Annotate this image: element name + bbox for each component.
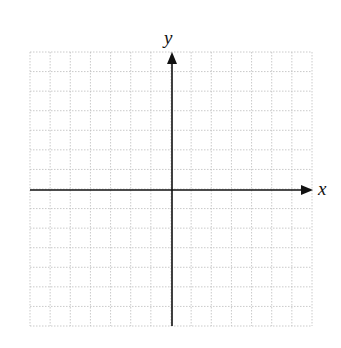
y-axis-label: y (164, 28, 172, 47)
coordinate-plane (0, 0, 341, 348)
y-axis-arrow-icon (167, 52, 177, 64)
x-axis-arrow-icon (301, 185, 313, 195)
grid (30, 52, 312, 326)
x-axis-label: x (318, 179, 326, 198)
